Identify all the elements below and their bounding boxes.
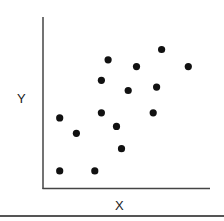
data-point — [105, 56, 112, 63]
data-point — [158, 46, 165, 53]
data-point — [56, 167, 63, 174]
data-point — [185, 63, 192, 70]
data-point — [98, 77, 105, 84]
bottom-divider — [0, 215, 224, 217]
y-axis-label: Y — [17, 92, 26, 105]
data-point — [133, 63, 140, 70]
data-point — [150, 109, 157, 116]
x-axis-label: X — [115, 199, 124, 212]
data-point — [125, 87, 132, 94]
data-point — [73, 130, 80, 137]
data-point — [118, 145, 125, 152]
data-point — [153, 84, 160, 91]
data-point — [91, 167, 98, 174]
scatter-plot — [0, 0, 224, 221]
data-point — [56, 114, 63, 121]
data-point — [98, 109, 105, 116]
data-points — [56, 46, 192, 175]
data-point — [113, 123, 120, 130]
